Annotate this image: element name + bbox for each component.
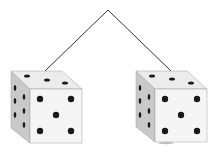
shadow (158, 142, 174, 144)
string (45, 10, 171, 71)
hanging-dice-illustration (0, 0, 220, 151)
left-die (11, 71, 82, 143)
right-die (136, 71, 207, 144)
